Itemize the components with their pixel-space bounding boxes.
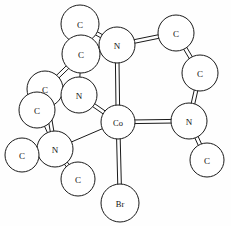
atom-c2: C (62, 35, 100, 73)
bond-N4-Co (70, 128, 104, 142)
atom-n1: N (99, 27, 135, 63)
bond-Co-Br (117, 137, 122, 185)
atom-label-c2: C (78, 50, 84, 60)
atom-label-c1: C (77, 20, 83, 30)
atom-label-n2: N (76, 91, 83, 101)
atom-label-c9: C (204, 156, 210, 166)
molecular-structure-figure: CCNCCCCNCoNNCCCBr (0, 0, 231, 226)
atom-label-br: Br (116, 199, 125, 209)
atom-c3: C (158, 15, 194, 51)
bond-N3-Co (133, 119, 172, 123)
atom-label-c3: C (173, 29, 179, 39)
atom-label-co: Co (113, 118, 123, 128)
atom-c7: C (5, 138, 39, 172)
atom-label-c7: C (19, 151, 25, 161)
atom-label-c8: C (75, 175, 81, 185)
atom-label-c4: C (197, 69, 203, 79)
atom-n4: N (37, 131, 73, 167)
atom-layer: CCNCCCCNCoNNCCCBr (5, 5, 224, 222)
atom-c4: C (182, 55, 218, 91)
atom-label-n1: N (114, 41, 121, 51)
atom-c9: C (190, 143, 224, 177)
atom-label-n4: N (52, 145, 59, 155)
structure-canvas: CCNCCCCNCoNNCCCBr (0, 0, 231, 226)
atom-n2: N (61, 77, 97, 113)
atom-c6: C (19, 92, 55, 128)
atom-n3: N (171, 103, 207, 139)
atom-label-c6: C (34, 106, 40, 116)
atom-br: Br (101, 184, 139, 222)
atom-label-n3: N (186, 117, 193, 127)
bond-N1-Co (115, 61, 119, 106)
bond-N1-C3 (133, 35, 160, 44)
atom-co: Co (101, 105, 135, 139)
atom-c8: C (61, 162, 95, 196)
